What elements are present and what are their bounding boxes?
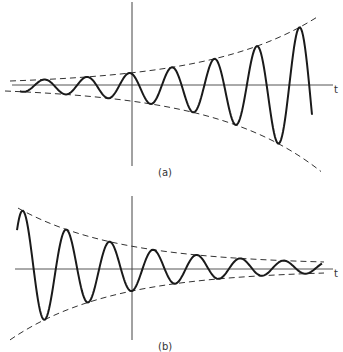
panel-a-caption: (a) (158, 167, 172, 178)
panel-a: t (a) (5, 2, 338, 178)
panel-b-upper-envelope (18, 208, 324, 262)
panel-b-lower-envelope (10, 273, 324, 340)
panel-a-t-label: t (334, 84, 338, 95)
panel-a-upper-envelope (10, 17, 318, 82)
panel-b: t (b) (10, 196, 338, 352)
panel-b-damped-oscillation-curve (17, 211, 322, 320)
panel-b-t-label: t (334, 268, 338, 279)
panel-b-caption: (b) (158, 341, 172, 352)
oscillation-diagram: t (a) t (b) (0, 0, 343, 352)
